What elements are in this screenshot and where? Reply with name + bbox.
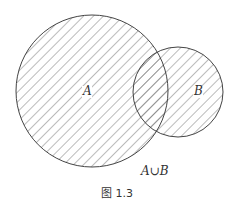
venn-diagram <box>0 0 235 206</box>
set-b-label: B <box>194 84 203 98</box>
figure-caption: 图 1.3 <box>101 184 133 200</box>
set-a-label: A <box>83 84 92 98</box>
union-label: A∪B <box>141 164 169 178</box>
